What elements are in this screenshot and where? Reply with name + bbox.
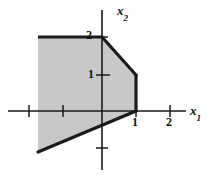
y-axis-label: x2 xyxy=(117,4,128,21)
x-axis-label: x1 xyxy=(190,104,201,121)
x-tick-label-1: 1 xyxy=(132,116,138,128)
y-tick-label-2: 2 xyxy=(86,29,92,41)
plot-svg xyxy=(0,0,210,177)
y-tick-label-1: 1 xyxy=(88,68,94,80)
feasible-region-shading xyxy=(38,37,136,152)
x-axis-label-subscript: 1 xyxy=(197,113,202,123)
x-axis-label-text: x xyxy=(190,103,197,118)
x-tick-label-2: 2 xyxy=(166,116,172,128)
figure-canvas: x2 x1 2 1 1 2 xyxy=(0,0,210,177)
y-axis-label-subscript: 2 xyxy=(124,13,129,23)
y-axis-label-text: x xyxy=(117,3,124,18)
